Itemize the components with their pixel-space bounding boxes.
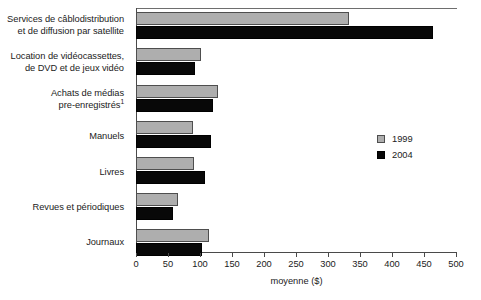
category-label-line: Journaux: [86, 237, 124, 247]
category-label-livres: Livres: [0, 167, 124, 179]
category-label-line: Services de câblodistribution: [7, 14, 124, 24]
category-label-line: Manuels: [89, 131, 124, 141]
bar-1999: [136, 121, 193, 134]
bar-1999: [136, 157, 194, 170]
category-label-journaux: Journaux: [0, 237, 124, 249]
x-tick: [296, 253, 297, 257]
category-label-line: pre-enregistrés1: [59, 100, 124, 110]
black-swatch-icon: [377, 151, 385, 159]
category-label-line: et de diffusion par satellite: [18, 26, 124, 36]
x-tick: [392, 253, 393, 257]
bar-1999: [136, 85, 218, 98]
category-label-line: Revues et périodiques: [33, 202, 124, 212]
category-label-cablodistribution: Services de câblodistribution et de diff…: [0, 14, 124, 37]
x-tick: [328, 253, 329, 257]
x-axis-title: moyenne ($): [136, 276, 457, 286]
bar-1999: [136, 193, 178, 206]
bar-2004: [136, 26, 433, 39]
legend-label: 2004: [392, 150, 413, 160]
legend-label: 1999: [392, 134, 413, 144]
category-label-line: Location de vidéocassettes,: [11, 51, 124, 61]
category-label-manuels: Manuels: [0, 131, 124, 143]
bar-2004: [136, 99, 213, 112]
bar-2004: [136, 135, 211, 148]
x-tick: [136, 253, 137, 257]
bar-1999: [136, 48, 201, 61]
bar-chart: Services de câblodistribution et de diff…: [0, 0, 481, 300]
bar-1999: [136, 12, 349, 25]
category-label-revues: Revues et périodiques: [0, 202, 124, 214]
category-label-achats-medias: Achats de médias pre-enregistrés1: [0, 88, 124, 111]
x-tick: [360, 253, 361, 257]
chart-legend: 1999 2004: [377, 131, 413, 163]
gray-swatch-icon: [377, 135, 385, 143]
legend-item-1999: 1999: [377, 131, 413, 147]
footnote-marker: 1: [120, 98, 124, 105]
bar-2004: [136, 207, 173, 220]
plot-area: [136, 8, 456, 252]
x-tick: [264, 253, 265, 257]
category-label-location-video: Location de vidéocassettes, de DVD et de…: [0, 51, 124, 74]
bar-2004: [136, 171, 205, 184]
x-tick: [200, 253, 201, 257]
x-tick: [424, 253, 425, 257]
bar-2004: [136, 62, 195, 75]
legend-item-2004: 2004: [377, 147, 413, 163]
x-tick: [456, 253, 457, 257]
bar-1999: [136, 229, 209, 242]
x-tick-label: 500: [436, 259, 476, 269]
category-label-line: Livres: [100, 167, 125, 177]
x-tick: [168, 253, 169, 257]
category-axis-labels: Services de câblodistribution et de diff…: [0, 8, 130, 252]
x-tick: [232, 253, 233, 257]
category-label-line: de DVD et de jeux vidéo: [25, 63, 124, 73]
category-label-line: Achats de médias: [51, 88, 124, 98]
